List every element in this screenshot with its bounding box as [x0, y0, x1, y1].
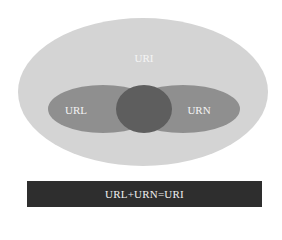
caption-bar: URL+URN=URI	[27, 181, 262, 207]
caption-text: URL+URN=URI	[105, 188, 184, 200]
uri-label: URI	[135, 52, 154, 64]
url-label: URL	[65, 104, 87, 116]
urn-label: URN	[187, 104, 210, 116]
intersection-region	[116, 85, 172, 133]
